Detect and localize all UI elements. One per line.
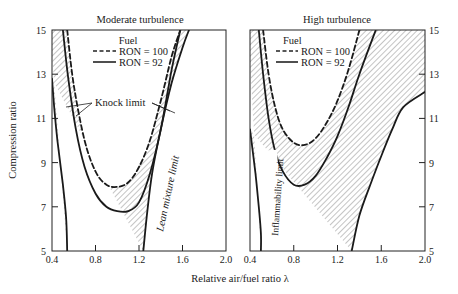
y-tick-label: 7 (429, 202, 434, 213)
legend-title: Fuel (283, 35, 302, 46)
panel-title: High turbulence (303, 14, 371, 25)
legend-ron92: RON = 92 (119, 57, 163, 68)
curve-rich-limit (52, 79, 67, 251)
x-axis-label: Relative air/fuel ratio λ (191, 273, 289, 284)
panel-high-turbulence: High turbulence 0.40.81.21.62.0579111315… (244, 14, 439, 265)
lean-mixture-limit-label: Lean mixture limit (154, 154, 181, 234)
x-tick-label: 0.4 (46, 254, 59, 265)
legend-ron100: RON = 100 (119, 46, 168, 57)
y-tick-label: 9 (429, 158, 434, 169)
x-tick-label: 1.6 (375, 254, 388, 265)
y-tick-label: 13 (429, 69, 439, 80)
x-tick-label: 1.2 (133, 254, 146, 265)
legend-title: Fuel (119, 35, 138, 46)
x-tick-label: 0.4 (244, 254, 257, 265)
y-tick-label: 15 (36, 25, 46, 36)
panel-title: Moderate turbulence (96, 14, 184, 25)
y-tick-label: 13 (36, 69, 46, 80)
y-axis-label: Compression ratio (7, 101, 18, 178)
x-tick-label: 0.8 (288, 254, 301, 265)
x-tick-label: 1.2 (331, 254, 344, 265)
y-tick-label: 7 (41, 202, 46, 213)
panel-moderate-turbulence: Moderate turbulence 0.40.81.21.62.057911… (36, 14, 232, 265)
legend-ron92: RON = 92 (301, 57, 345, 68)
y-tick-label: 11 (429, 113, 439, 124)
y-tick-label: 9 (41, 158, 46, 169)
y-tick-label: 5 (41, 246, 46, 257)
legend-ron100: RON = 100 (301, 46, 350, 57)
y-tick-label: 11 (36, 113, 46, 124)
x-tick-label: 2.0 (220, 254, 233, 265)
x-tick-label: 0.8 (89, 254, 102, 265)
y-tick-label: 5 (429, 246, 434, 257)
figure: Moderate turbulence 0.40.81.21.62.057911… (0, 0, 458, 294)
y-tick-label: 15 (429, 25, 439, 36)
knock-limit-label: Knock limit (95, 97, 146, 108)
x-tick-label: 1.6 (176, 254, 189, 265)
curve-inflammability-limit (250, 129, 261, 251)
